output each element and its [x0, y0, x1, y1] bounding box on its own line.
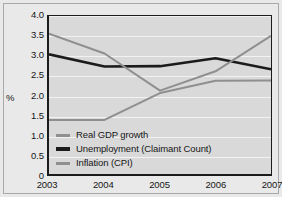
y-axis-tick: 1.5 — [0, 111, 44, 121]
y-axis-tick: 2.0 — [0, 91, 44, 101]
legend-item[interactable]: Real GDP growth — [56, 128, 236, 142]
y-axis-tick: 3.5 — [0, 30, 44, 40]
x-axis-tick: 2006 — [196, 180, 236, 190]
x-axis-tick: 2005 — [140, 180, 180, 190]
y-axis-tick-labels: 00.51.01.52.02.53.03.54.0 — [0, 0, 44, 197]
chart-figure: % 00.51.01.52.02.53.03.54.0 200320042005… — [0, 0, 282, 197]
y-axis-tick: 1.0 — [0, 131, 44, 141]
legend-swatch-icon — [56, 134, 70, 137]
x-axis-tick: 2004 — [83, 180, 123, 190]
y-axis-tick: 3.0 — [0, 50, 44, 60]
y-axis-tick: 0.5 — [0, 151, 44, 161]
legend-item[interactable]: Inflation (CPI) — [56, 156, 236, 170]
legend-swatch-icon — [56, 147, 70, 151]
y-axis-tick: 4.0 — [0, 10, 44, 20]
legend-label: Real GDP growth — [76, 130, 148, 140]
x-axis-tick: 2007 — [252, 180, 282, 190]
chart-legend: Real GDP growthUnemployment (Claimant Co… — [56, 128, 236, 170]
x-axis-tick: 2003 — [27, 180, 67, 190]
legend-item[interactable]: Unemployment (Claimant Count) — [56, 142, 236, 156]
legend-label: Unemployment (Claimant Count) — [76, 144, 211, 154]
legend-label: Inflation (CPI) — [76, 158, 133, 168]
y-axis-tick: 2.5 — [0, 70, 44, 80]
legend-swatch-icon — [56, 162, 70, 165]
series-line — [49, 80, 271, 120]
